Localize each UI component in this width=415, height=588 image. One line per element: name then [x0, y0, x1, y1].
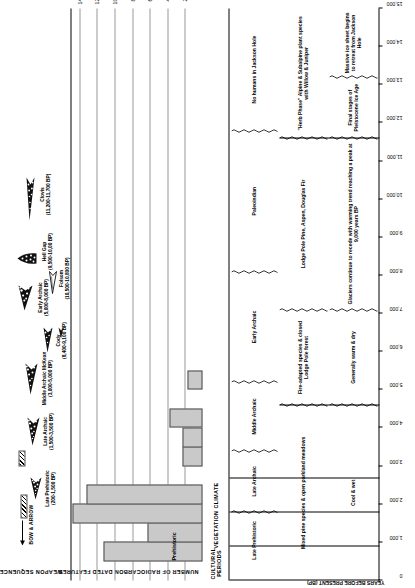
weapon-label-hell-gap: Hell Gap (9,500-10,00 BP) [41, 226, 52, 276]
projectile-point-clovis [22, 176, 38, 228]
period-squiggle-divider [279, 135, 327, 140]
cultural-period-cell: No humans in Jackson Hole [231, 8, 277, 130]
years-axis-title: YEARS BEFORE PRESENT (BP) [324, 578, 384, 584]
year-tick [378, 388, 382, 389]
projectile-point-hell-gap [16, 250, 40, 266]
years-axis: 01,0002,0003,0004,0005,0006,0007,0008,00… [378, 8, 406, 580]
weapon-name: Folsom [58, 269, 63, 286]
header-climate: CLIMATE [202, 478, 228, 512]
weapon-name: Early Archaic [37, 282, 42, 313]
weapon-name: Middle Archaic McKean [41, 351, 46, 405]
climate-label: Glaciers continue to recede with warming… [347, 141, 359, 307]
cultural-period-label: Middle Archaic [251, 398, 257, 434]
chart-y-tick-label: 2 [181, 0, 187, 1]
vegetation-cell: Mixed pine species & open parkland meado… [279, 405, 327, 580]
year-tick [378, 541, 382, 542]
chart-bar [103, 541, 202, 561]
chart-y-tick-label: 8 [129, 0, 135, 1]
year-tick [378, 7, 382, 8]
year-tick-label: 1,000 [389, 534, 402, 540]
year-tick-label: 11,000 [387, 153, 402, 159]
weapon-label-clovis: Clovis (11,200-11,700 BP) [39, 168, 50, 220]
year-tick-label: 0 [399, 572, 402, 578]
year-tick [378, 426, 382, 427]
year-tick-label: 13,000 [386, 76, 402, 82]
weapon-range: (3,000-5,000 BP) [47, 360, 52, 397]
year-tick-label: 6,000 [389, 343, 402, 349]
vegetation-label: "Herb Phase" Alpine & Subalpine plant sp… [297, 11, 309, 135]
year-tick-label: 10,000 [386, 191, 402, 197]
climate-cell: Final stages of Pleistocene Ice Age [329, 77, 377, 138]
year-tick [378, 198, 382, 199]
projectile-point-agate-basin [56, 326, 65, 340]
climate-cell: Massive ice sheet begins to retreat from… [329, 8, 377, 77]
year-tick-label: 9,000 [389, 229, 402, 235]
weapon-range: (200-1,500 BP) [50, 472, 55, 505]
year-tick [378, 465, 382, 466]
year-tick-label: 3,000 [389, 458, 402, 464]
climate-label: Final stages of Pleistocene Ice Age [347, 80, 359, 135]
header-climate-label: CLIMATE [212, 482, 218, 508]
prehistoric-annotation: Prehistoric [170, 532, 176, 560]
year-tick-label: 7,000 [389, 305, 402, 311]
year-tick-label: 8,000 [389, 267, 402, 273]
cultural-period-cell: Early Archaic [231, 271, 277, 382]
year-tick [378, 236, 382, 237]
bow-arrow-arrow-icon [18, 519, 26, 545]
year-tick [378, 312, 382, 313]
chart-bar [182, 446, 202, 466]
period-squiggle-divider [231, 379, 277, 384]
rotated-figure-stage: WEAPON SEQUENCE Late Prehistoric (200-1,… [0, 0, 415, 588]
cultural-period-label: Early Archaic [251, 310, 257, 342]
chart-bar [169, 408, 202, 428]
chart-bar [86, 484, 202, 504]
weapon-range: (11,200-11,700 BP) [45, 173, 50, 215]
year-tick-label: 12,000 [386, 114, 402, 120]
weapon-range: (10,500-10,800 BP) [64, 257, 69, 299]
year-tick-label: 2,000 [389, 496, 402, 502]
vegetation-label: Mixed pine species & open parkland meado… [300, 436, 306, 548]
climate-label: Massive ice sheet begins to retreat from… [344, 11, 362, 74]
period-squiggle-divider [329, 135, 377, 140]
weapon-label-late-archaic: Late Archaic (1,500-3,500 BP) [42, 402, 53, 460]
period-squiggle-divider [231, 509, 277, 514]
weapon-name: Late Archaic [42, 417, 47, 446]
climate-label: Generally warm & dry [350, 331, 356, 383]
figure-canvas: WEAPON SEQUENCE Late Prehistoric (200-1,… [0, 0, 415, 588]
hatch-bar-late-prehistoric [20, 494, 27, 518]
year-tick [378, 350, 382, 351]
year-tick-label: 5,000 [389, 381, 402, 387]
chart-bar [182, 427, 202, 447]
chart-y-tick-label: 12 [93, 0, 99, 4]
weapon-name: Late Prehistoric [44, 470, 49, 506]
year-tick [378, 503, 382, 504]
chart-bar [187, 370, 202, 390]
hatch-bar-late-archaic [18, 450, 25, 466]
header-cultural-periods-label: CULTURAL PERIODS [209, 546, 221, 580]
projectile-point-cody [40, 326, 54, 356]
period-squiggle-divider [231, 448, 277, 453]
weapon-range: (1,500-3,500 BP) [48, 413, 53, 450]
period-squiggle-divider [329, 307, 377, 312]
weapon-label-folsom: Folsom (10,500-10,800 BP) [58, 252, 69, 304]
projectile-point-folsom [46, 270, 58, 296]
table-grid: Late PrehistoricLate ArchaicMiddle Archa… [228, 8, 379, 580]
climate-cell: Generally warm & dry [329, 309, 377, 404]
bow-and-arrow-label: BOW & ARROW [28, 504, 33, 544]
radiocarbon-bar-chart: NUMBER OF RADIOCARBON DATED FEATURES 246… [70, 8, 202, 580]
period-squiggle-divider [279, 402, 327, 407]
projectile-point-early-archaic [15, 284, 35, 316]
vegetation-cell: Lodge Pole Pine, Aspen, Douglas Fir [279, 138, 327, 310]
year-tick-label: 4,000 [389, 419, 402, 425]
projectile-point-middle-archaic-mckean [22, 362, 39, 398]
cultural-period-label: No humans in Jackson Hole [251, 35, 257, 103]
weapon-sequence-title: WEAPON SEQUENCE [0, 568, 62, 574]
year-tick [378, 83, 382, 84]
table-header-row: CULTURAL PERIODS VEGETATION CLIMATE [202, 8, 228, 580]
period-squiggle-divider [231, 128, 277, 133]
vegetation-label: Lodge Pole Pine, Aspen, Douglas Fir [300, 179, 306, 268]
context-table: CULTURAL PERIODS VEGETATION CLIMATE Late… [202, 8, 410, 580]
vegetation-label: Fire-adapted species & closed Lodge Pole… [297, 312, 309, 401]
climate-cell: Cool & wet [329, 405, 377, 580]
chart-bar [72, 503, 202, 523]
